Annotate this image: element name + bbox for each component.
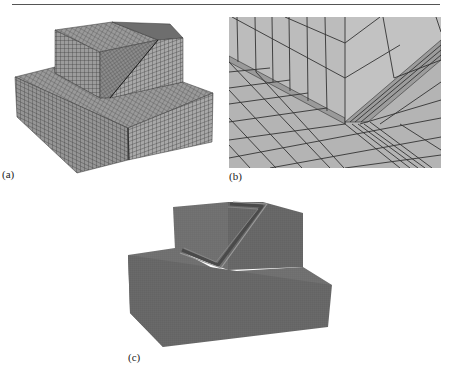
panel-label-b: (b) xyxy=(229,170,242,182)
panel-label-c: (c) xyxy=(128,351,140,363)
panel-b-closeup xyxy=(229,17,441,168)
panel-label-a: (a) xyxy=(2,168,14,180)
panel-a-mesh xyxy=(15,22,213,173)
figure-canvas xyxy=(0,0,452,371)
panel-c-refined-mesh xyxy=(128,202,332,347)
